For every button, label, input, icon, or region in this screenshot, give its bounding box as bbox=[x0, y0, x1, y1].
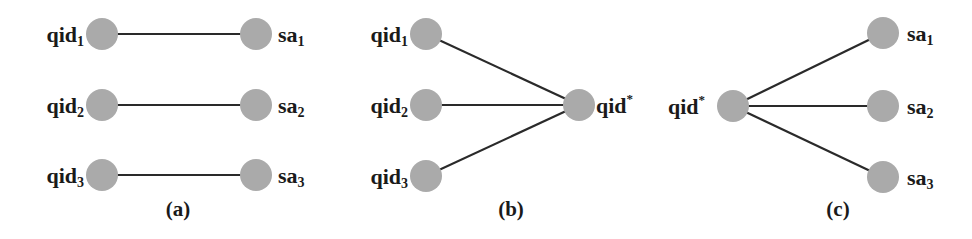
edge-qid1-qidstar bbox=[426, 34, 579, 105]
panel-b: qid1 qid2 qid3 qid* (b) bbox=[370, 18, 633, 221]
node-qidstar bbox=[563, 89, 595, 121]
caption-b: (b) bbox=[498, 197, 524, 221]
label-qid1: qid1 bbox=[370, 22, 408, 49]
label-qid2: qid2 bbox=[370, 93, 408, 120]
node-qid3 bbox=[410, 160, 442, 192]
label-sa1: sa1 bbox=[278, 22, 305, 49]
node-sa3 bbox=[867, 161, 899, 193]
node-sa3 bbox=[240, 159, 272, 191]
node-qid2 bbox=[86, 89, 118, 121]
panel-c: qid* sa1 sa2 sa3 (c) bbox=[668, 17, 934, 221]
label-qid3: qid3 bbox=[370, 164, 408, 191]
label-sa1: sa1 bbox=[907, 21, 934, 48]
edge-qidstar-sa1 bbox=[733, 33, 883, 106]
label-sa2: sa2 bbox=[278, 93, 305, 120]
node-qid2 bbox=[410, 89, 442, 121]
edge-qidstar-sa3 bbox=[733, 106, 883, 177]
label-sa2: sa2 bbox=[907, 94, 934, 121]
node-sa1 bbox=[240, 18, 272, 50]
label-qid2: qid2 bbox=[46, 93, 84, 120]
node-qid3 bbox=[86, 159, 118, 191]
label-qidstar: qid* bbox=[668, 92, 705, 119]
caption-a: (a) bbox=[166, 197, 191, 221]
label-qid1: qid1 bbox=[46, 22, 84, 49]
node-sa2 bbox=[867, 90, 899, 122]
node-qid1 bbox=[410, 18, 442, 50]
label-qidstar: qid* bbox=[596, 91, 633, 118]
label-sa3: sa3 bbox=[278, 163, 305, 190]
node-qid1 bbox=[86, 18, 118, 50]
node-sa2 bbox=[240, 89, 272, 121]
panel-a: qid1 qid2 qid3 sa1 sa2 sa3 (a) bbox=[46, 18, 304, 221]
node-sa1 bbox=[867, 17, 899, 49]
figure-canvas: qid1 qid2 qid3 sa1 sa2 sa3 (a) qid1 qid2… bbox=[0, 0, 972, 239]
label-sa3: sa3 bbox=[907, 165, 934, 192]
label-qid3: qid3 bbox=[46, 163, 84, 190]
edge-qid3-qidstar bbox=[426, 105, 579, 176]
node-qidstar bbox=[717, 90, 749, 122]
caption-c: (c) bbox=[826, 197, 849, 221]
